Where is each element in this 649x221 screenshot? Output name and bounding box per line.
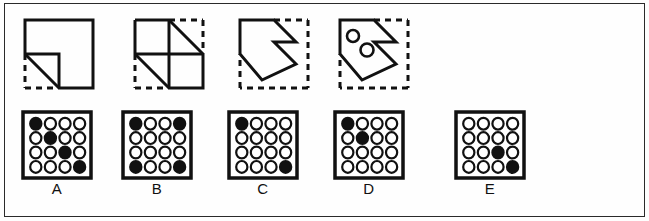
filled-circle xyxy=(236,118,247,130)
open-circle xyxy=(159,161,170,173)
option-e-grid[interactable] xyxy=(454,110,526,184)
option-b-svg xyxy=(121,110,193,180)
open-circle xyxy=(145,132,156,144)
open-circle xyxy=(174,132,185,144)
open-circle xyxy=(357,147,368,159)
open-circle xyxy=(386,161,397,173)
filled-circle xyxy=(74,161,85,173)
open-circle xyxy=(251,161,262,173)
options-row: A B C xyxy=(5,104,646,218)
open-circle xyxy=(386,132,397,144)
option-e[interactable]: E xyxy=(442,110,538,214)
open-circle xyxy=(251,132,262,144)
open-circle xyxy=(30,132,41,144)
open-circle xyxy=(265,118,276,130)
open-circle xyxy=(265,161,276,173)
open-circle xyxy=(265,132,276,144)
stimulus-row xyxy=(5,4,646,104)
option-c-grid[interactable] xyxy=(227,110,299,184)
open-circle xyxy=(463,161,474,173)
open-circle xyxy=(463,118,474,130)
option-c-svg xyxy=(227,110,299,180)
filled-circle xyxy=(357,132,368,144)
puzzle-page: A B C xyxy=(0,0,649,221)
open-circle xyxy=(159,118,170,130)
open-circle xyxy=(236,161,247,173)
open-circle xyxy=(45,161,56,173)
option-b-label: B xyxy=(109,180,205,197)
open-circle xyxy=(74,147,85,159)
open-circle xyxy=(45,147,56,159)
open-circle xyxy=(265,147,276,159)
open-circle xyxy=(145,147,156,159)
open-circle xyxy=(342,147,353,159)
open-circle xyxy=(251,147,262,159)
option-b-grid[interactable] xyxy=(121,110,193,184)
filled-circle xyxy=(30,118,41,130)
open-circle xyxy=(478,132,489,144)
filled-circle xyxy=(174,118,185,130)
open-circle xyxy=(145,118,156,130)
open-circle xyxy=(74,132,85,144)
open-circle xyxy=(357,118,368,130)
option-a[interactable]: A xyxy=(9,110,105,214)
filled-circle xyxy=(130,118,141,130)
open-circle xyxy=(463,132,474,144)
open-circle xyxy=(159,132,170,144)
open-circle xyxy=(59,132,70,144)
open-circle xyxy=(478,161,489,173)
filled-circle xyxy=(130,161,141,173)
open-circle xyxy=(507,147,518,159)
option-b[interactable]: B xyxy=(109,110,205,214)
open-circle xyxy=(478,147,489,159)
open-circle xyxy=(371,132,382,144)
option-a-grid[interactable] xyxy=(21,110,93,184)
open-circle xyxy=(251,118,262,130)
open-circle xyxy=(492,161,503,173)
option-c-label: C xyxy=(215,180,311,197)
open-circle xyxy=(507,132,518,144)
filled-circle xyxy=(507,161,518,173)
open-circle xyxy=(492,118,503,130)
option-d-label: D xyxy=(321,180,417,197)
open-circle xyxy=(342,161,353,173)
open-circle xyxy=(174,147,185,159)
filled-circle xyxy=(45,132,56,144)
open-circle xyxy=(145,161,156,173)
open-circle xyxy=(507,118,518,130)
open-circle xyxy=(342,132,353,144)
stimulus-figure-2 xyxy=(129,14,215,94)
open-circle xyxy=(59,161,70,173)
open-circle xyxy=(159,147,170,159)
open-circle xyxy=(371,118,382,130)
puzzle-frame: A B C xyxy=(4,3,645,217)
open-circle xyxy=(478,118,489,130)
filled-circle xyxy=(174,161,185,173)
stimulus-figure-3 xyxy=(234,14,320,94)
open-circle xyxy=(386,118,397,130)
option-d-grid[interactable] xyxy=(333,110,405,184)
option-a-svg xyxy=(21,110,93,180)
open-circle xyxy=(30,161,41,173)
open-circle xyxy=(371,161,382,173)
open-circle xyxy=(463,147,474,159)
stimulus-figure-4 xyxy=(334,14,420,94)
option-d[interactable]: D xyxy=(321,110,417,214)
open-circle xyxy=(357,161,368,173)
open-circle xyxy=(59,118,70,130)
open-circle xyxy=(236,147,247,159)
option-a-label: A xyxy=(9,180,105,197)
filled-circle xyxy=(492,147,503,159)
open-circle xyxy=(236,132,247,144)
open-circle xyxy=(280,118,291,130)
stimulus-figure-1 xyxy=(19,14,105,94)
open-circle xyxy=(130,147,141,159)
open-circle xyxy=(386,147,397,159)
option-e-svg xyxy=(454,110,526,180)
option-d-svg xyxy=(333,110,405,180)
open-circle xyxy=(130,132,141,144)
open-circle xyxy=(45,118,56,130)
open-circle xyxy=(30,147,41,159)
open-circle xyxy=(74,118,85,130)
option-c[interactable]: C xyxy=(215,110,311,214)
